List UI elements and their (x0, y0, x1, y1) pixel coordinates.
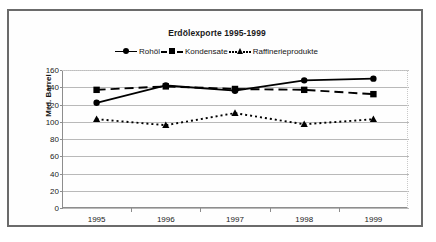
y-tick-label: 120 (46, 100, 59, 109)
data-point-marker (232, 86, 238, 92)
data-point-marker (301, 77, 307, 83)
y-tick-label: 80 (50, 135, 59, 144)
x-tick-mark (131, 208, 132, 212)
chart-frame: Erdölexporte 1995-1999 Rohöl Kondensate … (7, 9, 423, 227)
series-layer (62, 70, 408, 208)
data-point-marker (93, 87, 99, 93)
data-point-marker (163, 83, 169, 89)
x-tick-mark (200, 208, 201, 212)
x-tick-label: 1997 (226, 215, 244, 224)
y-tick-label: 160 (46, 66, 59, 75)
data-point-marker (93, 115, 100, 122)
x-tick-label: 1995 (88, 215, 106, 224)
y-tick-label: 60 (50, 152, 59, 161)
data-point-marker (93, 100, 99, 106)
y-tick-label: 0 (55, 204, 59, 213)
data-point-marker (370, 91, 376, 97)
data-point-marker (231, 109, 238, 116)
x-tick-label: 1999 (364, 215, 382, 224)
y-tick-label: 100 (46, 117, 59, 126)
y-tick-label: 140 (46, 83, 59, 92)
data-point-marker (370, 75, 376, 81)
data-point-marker (301, 121, 308, 128)
y-tick-label: 20 (50, 186, 59, 195)
y-tick-label: 40 (50, 169, 59, 178)
x-tick-label: 1996 (157, 215, 175, 224)
x-axis: 19951996199719981999 (62, 208, 408, 228)
x-tick-label: 1998 (295, 215, 313, 224)
x-tick-mark (270, 208, 271, 212)
x-tick-mark (339, 208, 340, 212)
plot-area-wrapper: Mrd. Barrel 020406080100120140160 199519… (9, 11, 425, 229)
data-point-marker (301, 87, 307, 93)
